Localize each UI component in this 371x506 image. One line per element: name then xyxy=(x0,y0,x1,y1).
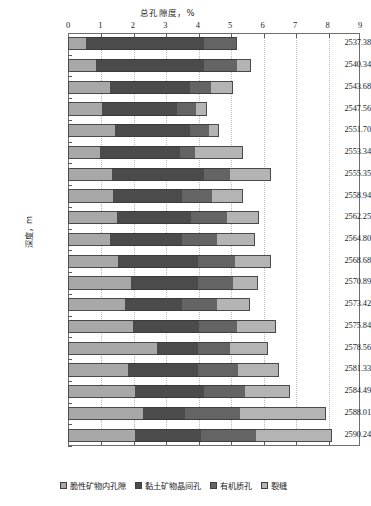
bar-segment xyxy=(256,429,332,442)
x-axis-tick-label: 3 xyxy=(163,20,167,30)
bar-segment xyxy=(68,385,135,398)
bar-segment xyxy=(100,146,179,159)
bar-segment xyxy=(211,81,234,94)
bar-segment xyxy=(182,189,213,202)
legend-item[interactable]: 脆性矿物内孔隙 xyxy=(60,479,126,491)
bar-segment xyxy=(68,320,133,333)
bar-segment xyxy=(68,211,117,224)
stacked-bar xyxy=(68,168,271,181)
y-axis-category-label: 2573.42 xyxy=(307,299,371,308)
bar-segment xyxy=(198,276,234,289)
bar-segment xyxy=(68,255,118,268)
legend-label: 裂缝 xyxy=(271,479,287,491)
bar-segment xyxy=(68,233,110,246)
stacked-bar xyxy=(68,81,233,94)
y-axis-category-label: 2564.80 xyxy=(307,234,371,243)
bar-segment xyxy=(125,298,182,311)
y-axis-tick xyxy=(68,98,72,99)
y-axis-category-label: 2562.25 xyxy=(307,212,371,221)
stacked-bar xyxy=(68,233,255,246)
bar-segment xyxy=(204,168,230,181)
y-axis-tick xyxy=(68,55,72,56)
bar-segment xyxy=(227,211,259,224)
legend-item[interactable]: 有机质孔 xyxy=(210,479,252,491)
bar-segment xyxy=(212,189,243,202)
stacked-bar xyxy=(68,189,243,202)
y-axis-title: 深度，m xyxy=(22,202,34,262)
y-axis-category-label: 2584.49 xyxy=(307,386,371,395)
stacked-bar xyxy=(68,255,271,268)
bar-segment xyxy=(238,363,279,376)
y-axis-tick xyxy=(68,424,72,425)
bar-segment xyxy=(128,363,198,376)
bar-segment xyxy=(217,233,254,246)
bar-segment xyxy=(68,146,100,159)
y-axis-tick xyxy=(68,381,72,382)
stacked-bar xyxy=(68,342,268,355)
y-axis-tick xyxy=(68,120,72,121)
legend-label: 黏土矿物晶间孔 xyxy=(145,479,201,491)
bar-segment xyxy=(195,146,244,159)
legend-item[interactable]: 黏土矿物晶间孔 xyxy=(135,479,201,491)
stacked-bar xyxy=(68,146,243,159)
bar-segment xyxy=(204,385,245,398)
bar-segment xyxy=(182,298,218,311)
bar-segment xyxy=(198,363,239,376)
bar-segment xyxy=(245,385,290,398)
x-axis-tick-label: 9 xyxy=(358,20,362,30)
bar-segment xyxy=(135,385,205,398)
grid-line xyxy=(264,34,265,445)
bar-segment xyxy=(177,102,196,115)
stacked-bar xyxy=(68,298,250,311)
bar-segment xyxy=(68,168,112,181)
stacked-bar xyxy=(68,363,279,376)
stacked-bar xyxy=(68,59,251,72)
bar-segment xyxy=(237,59,252,72)
bar-segment xyxy=(204,37,236,50)
bar-segment xyxy=(217,298,249,311)
bar-segment xyxy=(240,407,326,420)
bar-segment xyxy=(235,255,271,268)
bar-segment xyxy=(68,37,86,50)
bar-segment xyxy=(233,276,257,289)
bar-segment xyxy=(199,320,236,333)
stacked-bar xyxy=(68,385,290,398)
bar-segment xyxy=(157,342,198,355)
x-axis-tick-label: 7 xyxy=(293,20,297,30)
bar-segment xyxy=(201,429,256,442)
bar-segment xyxy=(86,37,204,50)
x-axis-tick-label: 5 xyxy=(228,20,232,30)
legend-color-swatch xyxy=(60,482,67,489)
y-axis-tick xyxy=(68,250,72,251)
y-axis-tick xyxy=(68,185,72,186)
bar-segment xyxy=(182,233,218,246)
bar-segment xyxy=(96,59,205,72)
legend-color-swatch xyxy=(210,482,217,489)
bar-segment xyxy=(185,407,240,420)
bar-segment xyxy=(68,298,125,311)
bar-segment xyxy=(190,124,209,137)
y-axis-category-label: 2575.84 xyxy=(307,321,371,330)
y-axis-category-label: 2581.33 xyxy=(307,364,371,373)
bar-segment xyxy=(209,124,219,137)
y-axis-tick xyxy=(68,207,72,208)
legend-item[interactable]: 裂缝 xyxy=(261,479,287,491)
bar-segment xyxy=(68,429,135,442)
y-axis-tick xyxy=(68,142,72,143)
y-axis-category-label: 2568.68 xyxy=(307,256,371,265)
axis-tick xyxy=(296,34,297,38)
bar-segment xyxy=(118,255,197,268)
stacked-bar xyxy=(68,429,332,442)
stacked-bar xyxy=(68,276,258,289)
bar-segment xyxy=(204,59,236,72)
x-axis-tick-label: 0 xyxy=(66,20,70,30)
bar-segment xyxy=(230,168,271,181)
y-axis-category-label: 2570.89 xyxy=(307,277,371,286)
stacked-bar xyxy=(68,102,208,115)
y-axis-tick xyxy=(68,163,72,164)
stacked-bar xyxy=(68,124,219,137)
bar-segment xyxy=(133,320,200,333)
bar-segment xyxy=(135,429,202,442)
grid-line xyxy=(296,34,297,445)
y-axis-category-label: 2558.94 xyxy=(307,191,371,200)
